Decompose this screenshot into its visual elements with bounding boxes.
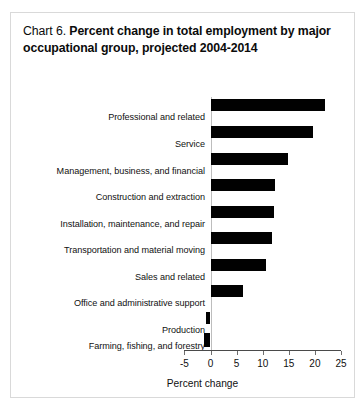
- x-axis-tick: [184, 351, 185, 355]
- x-axis-tick-label: 25: [328, 358, 354, 370]
- x-axis-tick-label: 20: [302, 358, 328, 370]
- x-axis-title-wrap: Percent change: [11, 378, 356, 389]
- category-label: Management, business, and financial: [57, 166, 205, 176]
- bar: [204, 333, 210, 347]
- category-label: Installation, maintenance, and repair: [60, 219, 205, 229]
- x-axis-title: Percent change: [167, 378, 238, 389]
- x-axis-tick: [341, 351, 342, 355]
- bar: [211, 285, 244, 297]
- x-axis-tick: [315, 351, 316, 355]
- bar: [206, 312, 210, 324]
- category-label: Office and administrative support: [74, 298, 205, 308]
- category-label: Construction and extraction: [96, 192, 205, 202]
- bar: [211, 99, 325, 111]
- bar-chart-plot-area: Professional and related Service Managem…: [11, 13, 356, 399]
- x-axis-tick: [263, 351, 264, 355]
- screenshot-canvas: Chart 6. Percent change in total employm…: [0, 0, 363, 419]
- x-axis-tick-label: 10: [250, 358, 276, 370]
- category-label: Service: [175, 139, 205, 149]
- x-axis-tick-label: 0: [198, 358, 224, 370]
- category-label: Transportation and material moving: [64, 245, 205, 255]
- x-axis-tick: [237, 351, 238, 355]
- bar: [211, 232, 273, 244]
- chart-figure-frame: Chart 6. Percent change in total employm…: [10, 12, 355, 398]
- bar: [211, 179, 276, 191]
- category-label: Production: [162, 325, 205, 335]
- bar: [211, 259, 267, 271]
- category-label: Sales and related: [135, 272, 205, 282]
- x-axis-tick-label: 5: [224, 358, 250, 370]
- x-axis-tick-label: -5: [171, 358, 197, 370]
- x-axis-tick-label: 15: [276, 358, 302, 370]
- bar: [211, 126, 313, 138]
- category-label: Professional and related: [108, 112, 205, 122]
- bar: [211, 206, 275, 218]
- x-axis-tick: [289, 351, 290, 355]
- bar: [211, 153, 289, 165]
- x-axis-tick: [211, 351, 212, 355]
